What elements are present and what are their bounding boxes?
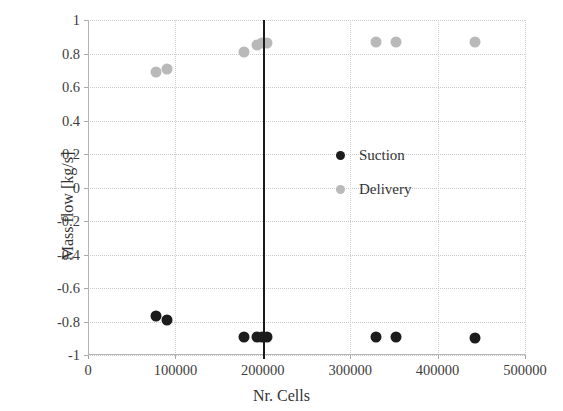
y-tick-label: 0.6 <box>62 79 80 96</box>
gridline-horizontal <box>88 221 525 222</box>
legend-item-suction[interactable]: Suction <box>336 138 466 172</box>
x-tick-label: 0 <box>84 362 91 379</box>
data-point-suction <box>151 311 162 322</box>
x-axis-line <box>88 354 525 355</box>
gridline-horizontal <box>88 87 525 88</box>
y-tick-mark <box>84 20 88 21</box>
data-point-delivery <box>151 66 162 77</box>
data-point-delivery <box>371 36 382 47</box>
gridline-horizontal <box>88 355 525 356</box>
x-tick-label: 100000 <box>154 362 198 379</box>
x-tick-mark <box>175 355 176 359</box>
x-tick-mark <box>525 355 526 359</box>
data-point-suction <box>470 333 481 344</box>
y-tick-mark <box>84 322 88 323</box>
y-tick-label: -0.8 <box>57 313 80 330</box>
y-tick-mark <box>84 288 88 289</box>
data-point-suction <box>371 331 382 342</box>
x-tick-label: 400000 <box>416 362 460 379</box>
y-tick-label: 1 <box>73 12 80 29</box>
legend-marker-icon <box>336 185 345 194</box>
x-tick-label: 200000 <box>241 362 285 379</box>
x-tick-label: 500000 <box>503 362 547 379</box>
chart-legend: SuctionDelivery <box>336 138 466 206</box>
y-tick-mark <box>84 87 88 88</box>
x-tick-mark <box>350 355 351 359</box>
y-tick-mark <box>84 188 88 189</box>
y-axis-title: Mass flow [kg/s] <box>59 151 77 259</box>
y-tick-mark <box>84 255 88 256</box>
data-point-delivery <box>238 46 249 57</box>
selected-mesh-line <box>263 20 265 359</box>
y-tick-label: 0.8 <box>62 45 80 62</box>
legend-label: Delivery <box>359 181 411 198</box>
x-axis-title: Nr. Cells <box>0 387 563 405</box>
data-point-suction <box>238 331 249 342</box>
data-point-delivery <box>390 36 401 47</box>
legend-marker-icon <box>336 151 345 160</box>
y-tick-label: 0.4 <box>62 112 80 129</box>
mesh-independence-scatter-chart: 10.80.60.40.20-0.2-0.4-0.6-0.8-1 0100000… <box>0 0 563 411</box>
gridline-horizontal <box>88 288 525 289</box>
data-point-suction <box>390 331 401 342</box>
gridline-horizontal <box>88 54 525 55</box>
x-tick-mark <box>88 355 89 359</box>
y-tick-mark <box>84 54 88 55</box>
y-tick-label: -1 <box>68 347 80 364</box>
legend-label: Suction <box>359 147 405 164</box>
gridline-horizontal <box>88 255 525 256</box>
data-point-delivery <box>161 63 172 74</box>
x-tick-mark <box>438 355 439 359</box>
y-tick-label: -0.6 <box>57 280 80 297</box>
legend-item-delivery[interactable]: Delivery <box>336 172 466 206</box>
y-tick-mark <box>84 154 88 155</box>
x-tick-label: 300000 <box>328 362 372 379</box>
gridline-horizontal <box>88 20 525 21</box>
data-point-suction <box>161 314 172 325</box>
gridline-vertical <box>525 20 526 355</box>
gridline-vertical <box>175 20 176 355</box>
y-tick-mark <box>84 221 88 222</box>
y-axis-line <box>88 20 89 355</box>
y-tick-mark <box>84 121 88 122</box>
data-point-delivery <box>470 36 481 47</box>
gridline-horizontal <box>88 121 525 122</box>
